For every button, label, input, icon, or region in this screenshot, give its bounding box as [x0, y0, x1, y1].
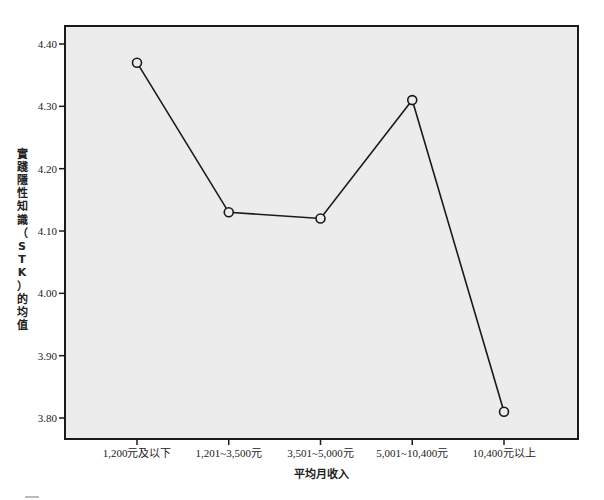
- x-tick-label: 10,400元以上: [472, 447, 535, 459]
- x-tick-label: 1,201~3,500元: [196, 447, 262, 459]
- y-tick-label: 4.20: [38, 163, 58, 175]
- y-tick-label: 3.80: [38, 412, 58, 424]
- data-point-marker: [408, 96, 417, 105]
- plot-area: [65, 26, 578, 439]
- data-point-marker: [500, 407, 509, 416]
- x-tick-label: 5,001~10,400元: [376, 447, 448, 459]
- y-tick-label: 4.40: [38, 38, 58, 50]
- data-point-marker: [133, 58, 142, 67]
- y-axis: 3.803.904.004.104.204.304.40: [38, 38, 65, 424]
- x-axis: 1,200元及以下1,201~3,500元3,501~5,000元5,001~1…: [103, 439, 536, 459]
- y-tick-label: 4.30: [38, 100, 58, 112]
- y-tick-label: 4.10: [38, 225, 58, 237]
- y-axis-title: 實踐隱性知識（STK）的均值: [16, 147, 28, 333]
- x-tick-label: 1,200元及以下: [103, 447, 172, 459]
- data-point-marker: [224, 208, 233, 217]
- line-chart: 3.803.904.004.104.204.304.40 1,200元及以下1,…: [0, 0, 604, 500]
- data-point-marker: [316, 214, 325, 223]
- x-tick-label: 3,501~5,000元: [287, 447, 353, 459]
- y-tick-label: 4.00: [38, 287, 58, 299]
- x-axis-title: 平均月收入: [294, 467, 349, 481]
- y-tick-label: 3.90: [38, 350, 58, 362]
- caption-fragment: [25, 496, 39, 498]
